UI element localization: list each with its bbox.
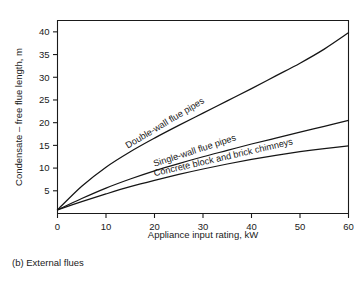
x-tick-label: 50 (295, 221, 306, 232)
figure-container: 510152025303540 0102030405060 Double-wal… (0, 0, 364, 281)
x-tick-label: 0 (55, 221, 60, 232)
y-tick-label: 40 (39, 26, 50, 37)
series-line-3 (58, 146, 349, 210)
y-tick-label: 20 (39, 117, 50, 128)
series-label-1: Double-wall flue pipes (124, 95, 207, 150)
y-tick-label: 5 (44, 185, 49, 196)
y-axis-title: Condensate – free flue length, m (13, 48, 24, 186)
x-axis-ticks (58, 214, 349, 219)
x-tick-label: 10 (101, 221, 112, 232)
y-tick-label: 30 (39, 72, 50, 83)
series-line-1 (58, 33, 349, 210)
y-axis-ticks (53, 32, 58, 191)
y-axis-tick-labels: 510152025303540 (39, 26, 50, 196)
x-axis-title: Appliance input rating, kW (148, 229, 258, 240)
plot-frame (58, 21, 349, 214)
y-tick-label: 15 (39, 140, 50, 151)
y-tick-label: 25 (39, 94, 50, 105)
y-tick-label: 10 (39, 162, 50, 173)
x-tick-label: 60 (343, 221, 354, 232)
data-series-group (58, 33, 349, 210)
series-labels-group: Double-wall flue pipesSingle-wall flue p… (124, 95, 294, 178)
chart-canvas: 510152025303540 0102030405060 Double-wal… (0, 0, 364, 281)
figure-caption: (b) External flues (12, 257, 84, 268)
y-tick-label: 35 (39, 49, 50, 60)
